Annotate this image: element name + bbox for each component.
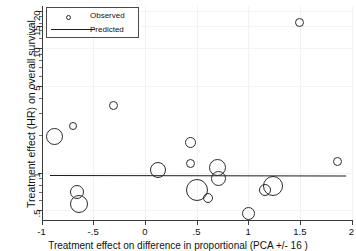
legend-marker-predicted [51,29,95,30]
x-tick-label: -.5 [73,226,113,237]
legend-marker-observed [66,15,71,20]
data-point-bubble [186,159,195,168]
x-tick-label: .5 [177,226,217,237]
x-tick-label: 2 [332,226,356,237]
data-point-bubble [295,18,304,27]
data-point-bubble [203,193,213,203]
x-tick-label: 1 [228,226,268,237]
x-tick-label: -1 [22,226,62,237]
line-icon [51,29,95,30]
data-point-bubble [185,137,196,148]
data-point-bubble [109,101,118,110]
data-point-bubble [69,122,77,130]
data-point-bubble [263,176,283,196]
x-axis-title: Treatment effect on difference in propor… [0,240,356,251]
data-point-bubble [211,171,226,186]
y-tick-label: 5 [30,85,41,115]
legend-label-predicted: Predicted [90,25,124,34]
y-tick-label: 20 [30,10,41,40]
legend-label-observed: Observed [90,11,125,20]
circle-icon [66,15,71,20]
data-point-bubble [242,207,255,220]
predicted-line [50,175,346,177]
data-point-bubble [70,195,88,213]
x-tick-label: 0 [125,226,165,237]
data-point-bubble [46,128,63,145]
data-point-bubble [333,157,342,166]
x-tick-label: 1.5 [280,226,320,237]
y-tick-label: 1 [30,172,41,202]
